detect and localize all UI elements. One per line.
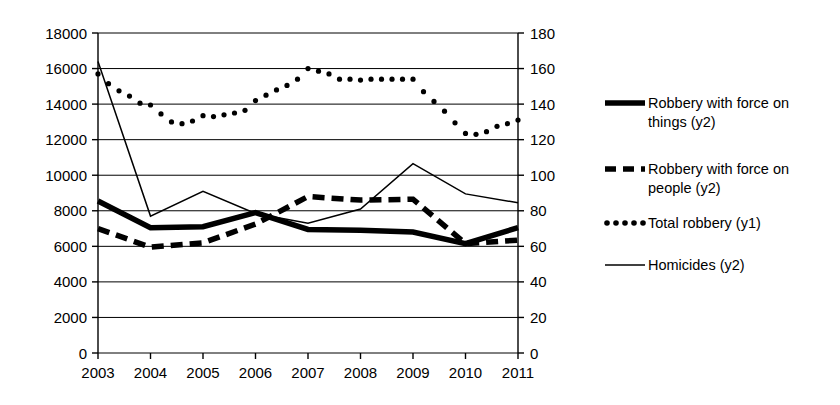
legend-label: Total robbery (y1) (648, 215, 761, 231)
legend-label: Homicides (y2) (648, 257, 745, 273)
x-axis: 200320042005200620072008200920102011 (81, 353, 534, 381)
y1-tick-label: 14000 (45, 96, 87, 113)
legend-dotted-line-swatch (640, 220, 646, 226)
legend-dotted-line-swatch (613, 220, 619, 226)
data-point (379, 77, 384, 82)
data-point (263, 93, 268, 98)
data-point (400, 77, 405, 82)
legend-label: Robbery with force on (648, 95, 789, 111)
y2-tick-label: 40 (530, 273, 547, 290)
legend-entry: Robbery with force onthings (y2) (605, 95, 789, 130)
y2-axis: 020406080100120140160180 (518, 25, 555, 362)
y1-tick-label: 10000 (45, 167, 87, 184)
y1-tick-label: 8000 (54, 202, 87, 219)
data-point (200, 113, 205, 118)
y2-tick-label: 20 (530, 309, 547, 326)
data-point (295, 77, 300, 82)
y1-tick-label: 6000 (54, 238, 87, 255)
y2-tick-label: 160 (530, 60, 555, 77)
data-point (473, 132, 478, 137)
data-point (505, 121, 510, 126)
data-point (242, 108, 247, 113)
data-point (179, 121, 184, 126)
data-point (442, 109, 447, 114)
data-point (116, 88, 121, 93)
legend-entry: Robbery with force onpeople (y2) (605, 161, 789, 196)
data-point (431, 99, 436, 104)
x-tick-label: 2004 (134, 364, 167, 381)
x-tick-label: 2008 (344, 364, 377, 381)
x-tick-label: 2003 (81, 364, 114, 381)
data-point (274, 87, 279, 92)
data-point (232, 110, 237, 115)
x-tick-label: 2005 (186, 364, 219, 381)
x-tick-label: 2009 (396, 364, 429, 381)
data-point (137, 101, 142, 106)
data-point (221, 112, 226, 117)
legend-dotted-line-swatch (631, 220, 637, 226)
y1-tick-label: 0 (79, 345, 87, 362)
y2-tick-label: 100 (530, 167, 555, 184)
data-point (463, 131, 468, 136)
data-point (284, 83, 289, 88)
x-tick-label: 2010 (449, 364, 482, 381)
chart-canvas: 0200040006000800010000120001400016000180… (0, 0, 840, 405)
y1-tick-label: 18000 (45, 25, 87, 42)
y2-tick-label: 120 (530, 131, 555, 148)
legend-label: Robbery with force on (648, 161, 789, 177)
plot-area-background (98, 33, 518, 353)
legend-label: people (y2) (648, 180, 721, 196)
data-point (347, 77, 352, 82)
y1-tick-label: 16000 (45, 60, 87, 77)
y1-tick-label: 4000 (54, 273, 87, 290)
y2-tick-label: 80 (530, 202, 547, 219)
data-point (190, 118, 195, 123)
data-point (95, 71, 100, 76)
data-point (421, 89, 426, 94)
data-point (326, 71, 331, 76)
data-point (127, 94, 132, 99)
data-point (368, 77, 373, 82)
data-point (389, 77, 394, 82)
chart-legend: Robbery with force onthings (y2)Robbery … (604, 95, 789, 273)
data-point (358, 78, 363, 83)
data-point (211, 114, 216, 119)
legend-label: things (y2) (648, 114, 716, 130)
data-point (452, 120, 457, 125)
data-point (158, 111, 163, 116)
data-point (410, 77, 415, 82)
x-tick-label: 2006 (239, 364, 272, 381)
y2-tick-label: 60 (530, 238, 547, 255)
data-point (515, 118, 520, 123)
legend-entry: Total robbery (y1) (604, 215, 761, 231)
data-point (337, 77, 342, 82)
y1-tick-label: 12000 (45, 131, 87, 148)
data-point (305, 66, 310, 71)
x-tick-label: 2007 (291, 364, 324, 381)
y1-tick-label: 2000 (54, 309, 87, 326)
data-point (484, 129, 489, 134)
data-point (316, 69, 321, 74)
x-tick-label: 2011 (502, 364, 534, 381)
data-point (148, 102, 153, 107)
y2-tick-label: 0 (530, 345, 538, 362)
chart-figure: 0200040006000800010000120001400016000180… (0, 0, 840, 405)
data-point (494, 124, 499, 129)
data-point (253, 98, 258, 103)
legend-dotted-line-swatch (622, 220, 628, 226)
data-point (169, 119, 174, 124)
legend-dotted-line-swatch (604, 220, 610, 226)
y2-tick-label: 180 (530, 25, 555, 42)
y1-axis: 0200040006000800010000120001400016000180… (45, 25, 98, 362)
y2-tick-label: 140 (530, 96, 555, 113)
legend-entry: Homicides (y2) (605, 257, 745, 273)
